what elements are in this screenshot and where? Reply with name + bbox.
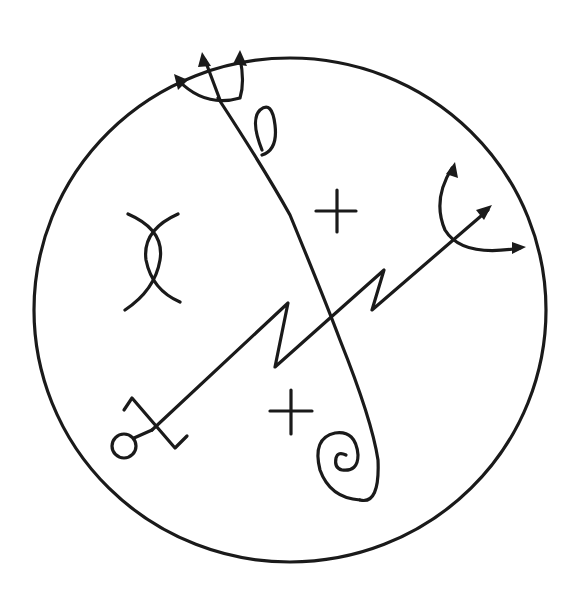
crossed-arcs-icon xyxy=(125,214,180,310)
sigil-figure xyxy=(0,0,575,590)
trident-top-icon xyxy=(174,50,247,101)
spiral-icon xyxy=(318,433,360,500)
outer-circle xyxy=(34,58,546,562)
cross-upper-icon xyxy=(316,190,356,232)
loop-oval-icon xyxy=(255,107,275,155)
zigzag-arrow xyxy=(152,205,492,430)
cross-lower-icon xyxy=(270,390,312,434)
